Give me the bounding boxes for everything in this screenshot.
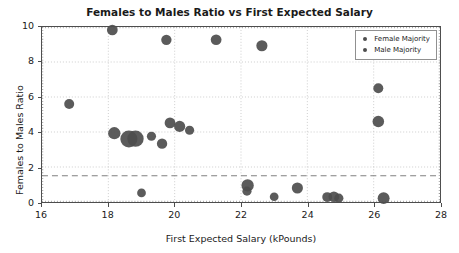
x-tick-label: 18 xyxy=(93,209,123,220)
plot-area: Female Majority Male Majority xyxy=(41,26,441,203)
legend-label-female-majority: Female Majority xyxy=(374,34,430,45)
x-tick-mark xyxy=(41,203,42,207)
y-tick-label: 10 xyxy=(10,20,34,31)
legend-item-male-majority: Male Majority xyxy=(360,45,430,56)
x-tick-mark xyxy=(241,203,242,207)
x-tick-mark xyxy=(108,203,109,207)
x-tick-label: 26 xyxy=(359,209,389,220)
legend-item-female-majority: Female Majority xyxy=(360,34,430,45)
x-tick-mark xyxy=(374,203,375,207)
y-tick-label: 4 xyxy=(10,126,34,137)
x-tick-mark xyxy=(174,203,175,207)
x-tick-label: 24 xyxy=(293,209,323,220)
x-tick-label: 20 xyxy=(159,209,189,220)
legend-marker-male-majority xyxy=(363,48,367,52)
y-tick-label: 2 xyxy=(10,162,34,173)
x-tick-label: 22 xyxy=(226,209,256,220)
y-tick-label: 0 xyxy=(10,197,34,208)
y-tick-label: 8 xyxy=(10,55,34,66)
x-tick-label: 16 xyxy=(26,209,56,220)
x-axis-label: First Expected Salary (kPounds) xyxy=(41,233,441,244)
page-title: Females to Males Ratio vs First Expected… xyxy=(0,6,459,18)
x-tick-label: 28 xyxy=(426,209,456,220)
chart-figure: Females to Males Ratio vs First Expected… xyxy=(0,0,459,253)
y-tick-label: 6 xyxy=(10,91,34,102)
legend-marker-female-majority xyxy=(363,37,367,41)
chart-legend: Female Majority Male Majority xyxy=(355,30,437,60)
legend-label-male-majority: Male Majority xyxy=(374,45,421,56)
x-tick-mark xyxy=(308,203,309,207)
x-tick-mark xyxy=(441,203,442,207)
